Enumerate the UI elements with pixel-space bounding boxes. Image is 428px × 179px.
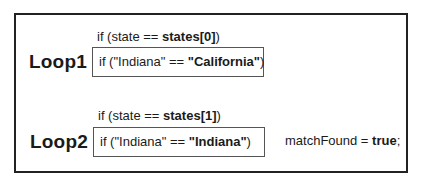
loop1-evaluation-box: if ("Indiana" == "California") xyxy=(92,47,264,77)
loop2-evaluation-suffix: ) xyxy=(247,134,251,149)
loop2-evaluation-box: if ("Indiana" == "Indiana") xyxy=(93,127,265,157)
loop2-result-prefix: matchFound = xyxy=(285,133,372,148)
loop2-evaluation: if ("Indiana" == "Indiana") xyxy=(100,134,251,149)
loop1-condition: if (state == states[0]) xyxy=(97,29,220,44)
loop2-label: Loop2 xyxy=(30,131,88,153)
loop2-result: matchFound = true; xyxy=(285,133,400,148)
loop1-condition-suffix: ) xyxy=(216,29,220,44)
loop1-evaluation: if ("Indiana" == "California") xyxy=(99,54,264,69)
loop2-evaluation-bold: "Indiana" xyxy=(189,134,247,149)
loop2-result-bold: true xyxy=(372,133,397,148)
loop1-evaluation-bold: "California" xyxy=(188,54,260,69)
loop1-label: Loop1 xyxy=(29,51,87,73)
loop2-condition-suffix: ) xyxy=(217,108,221,123)
loop1-condition-prefix: if (state == xyxy=(97,29,162,44)
loop2-condition: if (state == states[1]) xyxy=(98,108,221,123)
loop2-condition-bold: states[1] xyxy=(163,108,216,123)
loop2-result-suffix: ; xyxy=(397,133,401,148)
loop1-condition-bold: states[0] xyxy=(162,29,215,44)
loop1-evaluation-suffix: ) xyxy=(260,54,264,69)
loop1-evaluation-prefix: if ("Indiana" == xyxy=(99,54,188,69)
loop2-evaluation-prefix: if ("Indiana" == xyxy=(100,134,189,149)
loop2-condition-prefix: if (state == xyxy=(98,108,163,123)
